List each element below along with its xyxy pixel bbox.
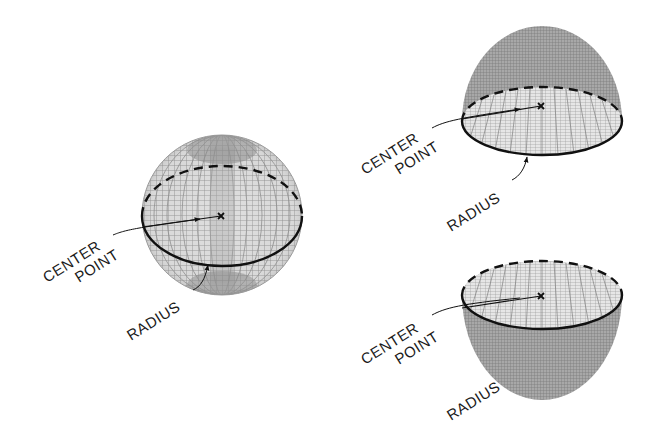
sphere-figure (113, 135, 302, 299)
bowl-figure (432, 261, 622, 400)
dome-figure (432, 26, 622, 180)
diagram-canvas (0, 0, 645, 423)
radius-leader (512, 157, 527, 180)
